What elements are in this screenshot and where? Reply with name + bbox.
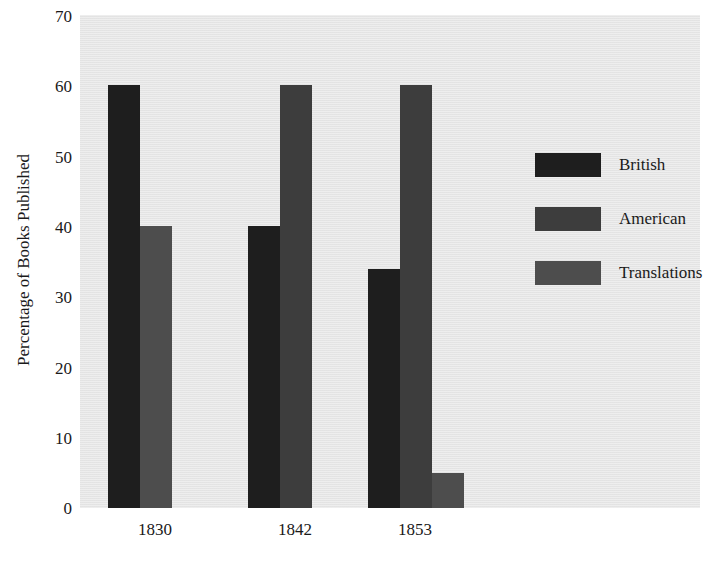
y-axis-tick: 60 [32, 78, 72, 95]
bar-chart-figure: and American Books Published in the U.S.… [0, 0, 708, 563]
bar-1830-british [108, 85, 140, 508]
y-axis-tick: 30 [32, 289, 72, 306]
y-axis-tick: 20 [32, 360, 72, 377]
bar-1853-american [400, 85, 432, 508]
bar-1853-translations [432, 473, 464, 508]
legend-label: American [619, 209, 686, 229]
legend-swatch-icon [535, 153, 601, 177]
x-axis-tick: 1830 [95, 520, 215, 540]
legend-item: British [535, 153, 702, 177]
bar-1853-british [368, 269, 400, 508]
y-axis-title: Percentage of Books Published [14, 20, 34, 500]
bar-1830-translations [140, 226, 172, 508]
x-axis-tick: 1842 [235, 520, 355, 540]
y-axis-tick: 70 [32, 8, 72, 25]
y-axis-tick: 50 [32, 149, 72, 166]
legend-label: British [619, 155, 665, 175]
legend-label: Translations [619, 263, 702, 283]
legend-item: American [535, 207, 702, 231]
legend-swatch-icon [535, 261, 601, 285]
bar-1842-american [280, 85, 312, 508]
y-axis-tick: 10 [32, 430, 72, 447]
x-axis-tick: 1853 [355, 520, 475, 540]
plot-area: BritishAmericanTranslations [80, 15, 700, 508]
chart-legend: BritishAmericanTranslations [535, 153, 702, 315]
chart-title: and American Books Published in the U.S. [0, 0, 708, 3]
legend-swatch-icon [535, 207, 601, 231]
bar-1842-british [248, 226, 280, 508]
legend-item: Translations [535, 261, 702, 285]
y-axis-tick: 0 [32, 500, 72, 517]
y-axis-tick: 40 [32, 219, 72, 236]
